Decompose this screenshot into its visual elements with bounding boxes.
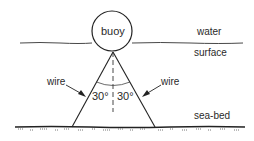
- sea-bed-texture: [18, 129, 239, 130]
- wire-right-label: wire: [161, 77, 179, 87]
- wire-left-label: wire: [47, 77, 65, 87]
- sea-bed-line: [15, 127, 245, 128]
- water-surface-line: [20, 43, 243, 44]
- arrow-right-head-icon: [142, 90, 150, 97]
- buoy-diagram: buoy water surface sea-bed wire wire 30°…: [0, 0, 254, 141]
- arrow-left-head-icon: [78, 90, 86, 97]
- buoy-label: buoy: [101, 26, 125, 37]
- angle-left-label: 30°: [92, 91, 109, 102]
- surface-label: surface: [194, 48, 227, 58]
- water-label: water: [197, 27, 221, 37]
- sea-bed-label: sea-bed: [194, 111, 230, 121]
- angle-right-label: 30°: [117, 91, 134, 102]
